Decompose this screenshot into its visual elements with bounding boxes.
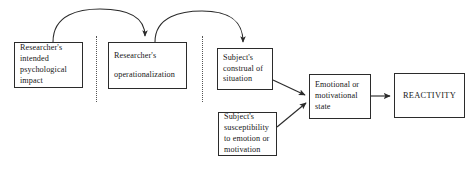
arc-impact-to-operationalization (53, 9, 145, 42)
node-operationalization: Researcher's operationalization (108, 42, 187, 89)
divider-dotted-two (202, 36, 204, 102)
divider-dotted-one (96, 36, 98, 102)
node-susceptibility-label: Subject's susceptibility to emotion or m… (224, 112, 269, 155)
node-reactivity: REACTIVITY (394, 73, 465, 118)
node-construal-label: Subject's construal of situation (223, 53, 263, 85)
node-emotional-state: Emotional or motivational state (309, 74, 371, 119)
node-intended-impact: Researcher's intended psychological impa… (14, 42, 83, 88)
diagram-canvas: Researcher's intended psychological impa… (0, 0, 475, 171)
node-emotional-state-label: Emotional or motivational state (315, 80, 359, 112)
arrow-construal-to-state (273, 80, 305, 95)
arc-operationalization-to-construal (155, 11, 243, 42)
node-reactivity-label: REACTIVITY (403, 90, 456, 101)
node-operationalization-label: Researcher's operationalization (114, 47, 175, 83)
node-susceptibility: Subject's susceptibility to emotion or m… (218, 112, 277, 156)
arrow-susceptibility-to-state (277, 103, 306, 127)
node-construal: Subject's construal of situation (217, 48, 273, 90)
node-intended-impact-label: Researcher's intended psychological impa… (20, 43, 67, 86)
